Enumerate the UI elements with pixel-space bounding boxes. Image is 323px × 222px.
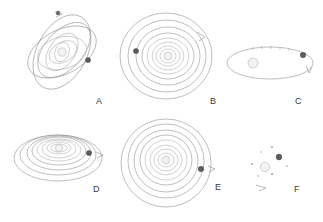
direction-arrow-b (197, 32, 205, 41)
panel-label-e: E (215, 182, 221, 192)
star-b (164, 52, 172, 60)
panel-label-a: A (96, 96, 102, 106)
planet-marker-a1 (85, 57, 90, 62)
star-f (260, 162, 269, 171)
panel-f: F (251, 146, 300, 194)
direction-arrow-c (306, 66, 312, 73)
star-e (162, 156, 170, 164)
panel-e: E (121, 119, 221, 207)
panel-a: A (19, 5, 105, 106)
planet-marker-f1 (276, 154, 282, 160)
planet-marker-d1 (86, 150, 91, 155)
panel-b: B (120, 13, 216, 106)
star-a (58, 48, 66, 56)
direction-arrow-f (256, 185, 266, 191)
planet-marker-c1 (300, 52, 306, 58)
panel-label-d: D (93, 184, 100, 194)
star-c (248, 58, 258, 68)
figure-canvas: A B (0, 0, 323, 222)
panel-d-orbits (14, 135, 102, 181)
planet-marker-e1 (198, 166, 204, 172)
panel-label-f: F (294, 184, 300, 194)
direction-arrow-e (208, 166, 215, 172)
panel-label-b: B (210, 96, 216, 106)
star-d (55, 144, 62, 151)
panel-c-orbit (227, 47, 313, 79)
planet-marker-b1 (133, 48, 138, 53)
panel-label-c: C (295, 96, 302, 106)
panel-c: C (227, 46, 313, 106)
panel-f-debris (251, 146, 288, 177)
panel-d: D (14, 135, 103, 194)
orbital-systems-figure: A B (0, 0, 323, 222)
panel-c-ticks (253, 46, 289, 51)
